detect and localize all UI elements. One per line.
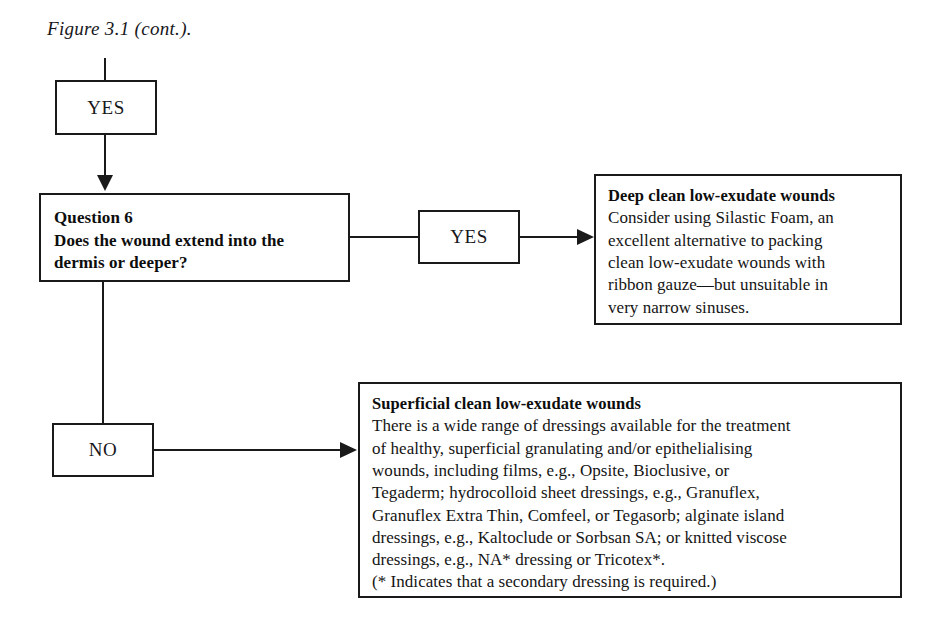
deep-box-line-1: Consider using Silastic Foam, an [608,207,889,229]
connector-yes-middle-to-deep-box [520,236,580,238]
node-superficial-clean-low-exudate-wounds: Superficial clean low-exudate wounds The… [358,382,902,598]
superficial-box-footnote: (* Indicates that a secondary dressing i… [372,571,889,593]
connector-incoming-to-yes-top [104,58,106,80]
deep-box-line-2: excellent alternative to packing [608,230,889,252]
deep-box-line-3: clean low-exudate wounds with [608,252,889,274]
arrowhead-right-to-deep-box [577,229,594,245]
question-6-line-2: Does the wound extend into the [54,230,348,253]
node-deep-clean-low-exudate-wounds: Deep clean low-exudate wounds Consider u… [594,174,902,325]
superficial-box-line-6: dressings, e.g., Kaltoclude or Sorbsan S… [372,527,889,549]
node-yes-middle: YES [418,210,520,264]
deep-box-line-5: very narrow sinuses. [608,297,889,319]
arrowhead-right-to-superficial-box [340,442,357,458]
arrowhead-down-to-question6 [97,175,113,191]
connector-question6-to-yes-middle [350,236,418,238]
superficial-box-heading: Superficial clean low-exudate wounds [372,393,889,414]
superficial-box-line-4: Tegaderm; hydrocolloid sheet dressings, … [372,482,889,504]
node-no-branch-label: NO [89,439,118,461]
figure-canvas: Figure 3.1 (cont.). YES Question 6 Does … [0,0,941,618]
deep-box-heading: Deep clean low-exudate wounds [608,185,889,206]
superficial-box-line-2: of healthy, superficial granulating and/… [372,438,889,460]
question-6-line-3: dermis or deeper? [54,252,348,275]
connector-yes-top-to-question6 [104,135,106,177]
connector-question6-to-no [102,282,104,423]
node-question-6: Question 6 Does the wound extend into th… [39,193,350,282]
node-yes-top-label: YES [87,97,125,119]
superficial-box-line-5: Granuflex Extra Thin, Comfeel, or Tegaso… [372,505,889,527]
node-yes-middle-label: YES [450,226,488,248]
connector-no-to-superficial-box [154,449,342,451]
superficial-box-line-3: wounds, including films, e.g., Opsite, B… [372,460,889,482]
deep-box-line-4: ribbon gauze—but unsuitable in [608,274,889,296]
superficial-box-line-1: There is a wide range of dressings avail… [372,415,889,437]
superficial-box-line-7: dressings, e.g., NA* dressing or Tricote… [372,549,889,571]
node-no-branch: NO [52,423,154,477]
node-yes-top: YES [55,80,157,135]
figure-caption: Figure 3.1 (cont.). [47,18,192,40]
question-6-line-1: Question 6 [54,207,348,230]
